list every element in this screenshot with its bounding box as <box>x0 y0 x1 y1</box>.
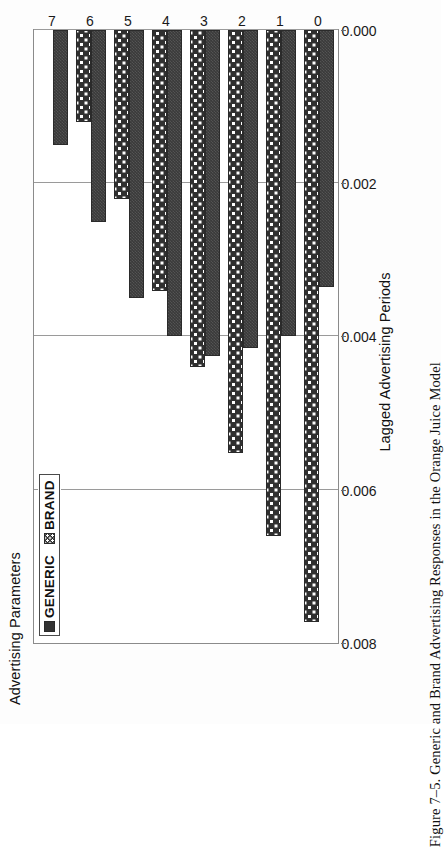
legend-swatch-brand-icon <box>44 533 55 544</box>
legend-swatch-generic-icon <box>44 621 55 632</box>
category-axis-title: Lagged Advertising Periods <box>377 272 393 451</box>
legend-label-brand: BRAND <box>42 480 57 530</box>
caption-container: Figure 7–5. Generic and Brand Advertisin… <box>407 0 441 724</box>
bar-generic-7 <box>53 30 68 145</box>
bar-brand-1 <box>265 30 280 536</box>
bar-generic-6 <box>91 30 106 222</box>
gridline <box>34 489 338 490</box>
bar-brand-3 <box>189 30 204 367</box>
category-axis-tick-labels: 01234567 <box>33 3 337 29</box>
value-tick-label: 0.006 <box>341 483 376 499</box>
value-tick-mark <box>341 183 346 184</box>
chart-canvas: Advertising Parameters 0.0080.0060.0040.… <box>3 17 395 707</box>
bar-generic-1 <box>281 30 296 337</box>
bar-brand-5 <box>113 30 128 199</box>
category-tick-label: 4 <box>162 13 170 29</box>
value-tick-label: 0.008 <box>341 636 376 652</box>
value-tick-mark <box>341 336 346 337</box>
bar-generic-0 <box>319 30 334 287</box>
legend-label-generic: GENERIC <box>42 555 57 618</box>
value-tick-mark <box>341 30 346 31</box>
category-tick-label: 1 <box>276 13 284 29</box>
value-tick-label: 0.002 <box>341 176 376 192</box>
category-tick-label: 3 <box>200 13 208 29</box>
bar-brand-4 <box>151 30 166 291</box>
legend-entry-brand: BRAND <box>42 480 57 544</box>
bar-generic-4 <box>167 30 182 337</box>
bar-generic-2 <box>243 30 258 348</box>
value-axis-title: Advertising Parameters <box>7 552 23 705</box>
bar-generic-5 <box>129 30 144 298</box>
bar-generic-3 <box>205 30 220 356</box>
category-tick-label: 5 <box>124 13 132 29</box>
category-tick-label: 0 <box>314 13 322 29</box>
legend-entry-generic: GENERIC <box>42 555 57 632</box>
bar-brand-6 <box>75 30 90 122</box>
chart-legend: GENERIC BRAND <box>39 474 60 636</box>
value-axis-labels: 0.0080.0060.0040.0020.000 <box>341 31 365 644</box>
figure-caption: Figure 7–5. Generic and Brand Advertisin… <box>427 362 444 847</box>
category-tick-label: 6 <box>86 13 94 29</box>
value-tick-label: 0.004 <box>341 330 376 346</box>
value-tick-mark <box>341 490 346 491</box>
bar-brand-2 <box>227 30 242 453</box>
plot-area <box>33 29 339 644</box>
category-tick-label: 7 <box>48 13 56 29</box>
category-tick-label: 2 <box>238 13 246 29</box>
value-tick-mark <box>341 643 346 644</box>
bar-brand-0 <box>303 30 318 622</box>
value-tick-label: 0.000 <box>341 23 376 39</box>
